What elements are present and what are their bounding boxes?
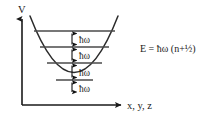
oscillator-diagram: V x, y, z ħω ħω ħω ħω E = ħω (n+½) xyxy=(0,0,218,125)
x-axis-label: x, y, z xyxy=(127,100,152,111)
potential-curve xyxy=(30,16,118,73)
energy-formula: E = ħω (n+½) xyxy=(140,43,196,55)
y-axis-label: V xyxy=(18,4,26,15)
diagram-canvas: V x, y, z ħω ħω ħω ħω E = ħω (n+½) xyxy=(0,0,218,125)
spacing-label-1: ħω xyxy=(79,35,90,45)
spacing-label-3: ħω xyxy=(79,68,90,78)
spacing-label-2: ħω xyxy=(79,51,90,61)
spacing-label-4: ħω xyxy=(79,84,90,94)
